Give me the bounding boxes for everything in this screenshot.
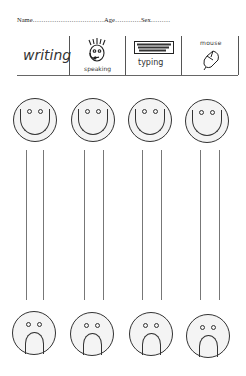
scale-line-1-left[interactable] <box>26 150 27 300</box>
typing-label: typing <box>138 58 163 67</box>
frown-mouth <box>199 335 218 357</box>
scale-line-2-left[interactable] <box>84 150 85 300</box>
activity-box-speaking: speaking <box>70 36 126 75</box>
eye-right <box>37 322 42 327</box>
eye-right <box>211 325 216 330</box>
frown-mouth <box>83 333 102 355</box>
computer-mouse-icon <box>202 49 222 71</box>
name-label: Name <box>17 16 33 23</box>
happy-face-icon[interactable] <box>128 98 172 142</box>
scale-line-2-right[interactable] <box>103 150 104 300</box>
eye-left <box>143 323 148 328</box>
speaking-label: speaking <box>84 65 111 72</box>
eye-left <box>26 322 31 327</box>
writing-label: writing <box>23 47 71 63</box>
scale-line-3-right[interactable] <box>161 150 162 300</box>
name-field[interactable]: …………………………… <box>33 16 105 23</box>
frown-mouth <box>25 332 44 354</box>
age-field[interactable]: ………… <box>115 16 141 23</box>
sad-face-icon[interactable] <box>12 311 56 355</box>
smile-mouth <box>135 109 165 135</box>
age-label: Age <box>104 16 115 23</box>
eye-left <box>200 325 205 330</box>
sad-face-icon[interactable] <box>129 312 173 356</box>
happy-face-icon[interactable] <box>185 99 229 143</box>
eye-right <box>154 323 159 328</box>
eye-left <box>84 323 89 328</box>
sex-label: Sex <box>141 16 151 23</box>
scale-line-3-left[interactable] <box>142 150 143 300</box>
sex-field[interactable]: ……… <box>151 16 171 23</box>
happy-face-icon[interactable] <box>71 98 115 142</box>
scale-line-4-right[interactable] <box>219 150 220 300</box>
face-with-headset-icon <box>86 38 108 64</box>
frown-mouth <box>142 333 161 355</box>
mouse-label: mouse <box>200 39 222 46</box>
keyboard-icon <box>134 41 174 54</box>
activity-row-baseline <box>17 75 238 76</box>
activity-box-mouse: mouse <box>182 36 239 75</box>
eye-right <box>95 323 100 328</box>
smile-mouth <box>20 109 50 135</box>
sad-face-icon[interactable] <box>70 312 114 356</box>
smile-mouth <box>192 110 222 136</box>
activity-box-writing: writing <box>17 36 70 75</box>
respondent-info-line: Name……………………………Age…………Sex……… <box>17 16 170 23</box>
sad-face-icon[interactable] <box>186 314 230 358</box>
happy-face-icon[interactable] <box>13 98 57 142</box>
activity-box-typing: typing <box>126 36 182 75</box>
smile-mouth <box>78 109 108 135</box>
scale-line-4-left[interactable] <box>200 150 201 300</box>
scale-line-1-right[interactable] <box>43 150 44 300</box>
